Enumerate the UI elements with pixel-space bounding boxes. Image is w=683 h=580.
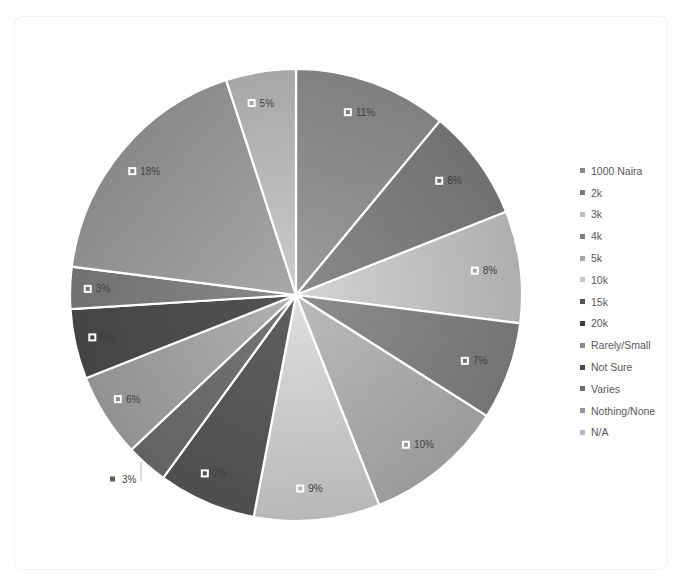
- legend-label: 20k: [591, 317, 608, 329]
- data-label: 5%: [88, 332, 115, 343]
- legend-swatch-icon: [580, 365, 585, 370]
- svg-text:10%: 10%: [414, 439, 434, 450]
- legend-label: 2k: [591, 187, 602, 199]
- data-label: 9%: [296, 483, 323, 494]
- svg-text:9%: 9%: [308, 483, 323, 494]
- legend-item-varies: Varies: [580, 378, 655, 400]
- svg-text:3%: 3%: [96, 283, 111, 294]
- legend-item-5k: 5k: [580, 247, 655, 269]
- legend-swatch-icon: [580, 408, 585, 413]
- legend-item-nothing-none: Nothing/None: [580, 400, 655, 422]
- legend-label: 1000 Naira: [591, 165, 642, 177]
- data-label: 7%: [201, 468, 228, 479]
- legend-swatch-icon: [580, 190, 585, 195]
- legend-swatch-icon: [580, 277, 585, 282]
- legend-label: N/A: [591, 426, 609, 438]
- data-label: 6%: [114, 394, 141, 405]
- legend-item-not-sure: Not Sure: [580, 356, 655, 378]
- legend-label: Nothing/None: [591, 405, 655, 417]
- legend-swatch-icon: [580, 321, 585, 326]
- data-label: 8%: [435, 175, 462, 186]
- legend-swatch-icon: [580, 234, 585, 239]
- legend-swatch-icon: [580, 256, 585, 261]
- legend-label: 10k: [591, 274, 608, 286]
- legend-item-rarely-small: Rarely/Small: [580, 334, 655, 356]
- legend-item-20k: 20k: [580, 313, 655, 335]
- svg-text:5%: 5%: [100, 332, 115, 343]
- legend-label: Varies: [591, 383, 620, 395]
- legend-swatch-icon: [580, 212, 585, 217]
- data-label: 11%: [344, 107, 375, 118]
- data-label: 8%: [471, 265, 498, 276]
- svg-text:18%: 18%: [140, 166, 160, 177]
- svg-text:8%: 8%: [447, 175, 462, 186]
- legend-item-4k: 4k: [580, 225, 655, 247]
- svg-text:7%: 7%: [473, 355, 488, 366]
- data-label: 10%: [402, 439, 434, 450]
- legend-swatch-icon: [580, 168, 585, 173]
- legend-label: 5k: [591, 252, 602, 264]
- data-label: 5%: [248, 98, 275, 109]
- legend-label: 15k: [591, 296, 608, 308]
- svg-text:7%: 7%: [213, 468, 228, 479]
- data-label: 3%: [84, 283, 111, 294]
- legend-item-10k: 10k: [580, 269, 655, 291]
- legend-swatch-icon: [580, 299, 585, 304]
- legend-item-n-a: N/A: [580, 422, 655, 444]
- legend-swatch-icon: [580, 386, 585, 391]
- legend-swatch-icon: [580, 430, 585, 435]
- legend-swatch-icon: [580, 343, 585, 348]
- legend-item-15k: 15k: [580, 291, 655, 313]
- legend-item-1000-naira: 1000 Naira: [580, 160, 655, 182]
- svg-text:5%: 5%: [260, 98, 275, 109]
- legend-item-2k: 2k: [580, 182, 655, 204]
- svg-text:3%: 3%: [122, 474, 137, 485]
- chart-legend: 1000 Naira2k3k4k5k10k15k20kRarely/SmallN…: [580, 160, 655, 443]
- data-label: 18%: [128, 166, 160, 177]
- legend-label: 4k: [591, 230, 602, 242]
- data-label: 3%: [110, 462, 141, 485]
- svg-text:8%: 8%: [483, 265, 498, 276]
- legend-label: Not Sure: [591, 361, 632, 373]
- data-label: 7%: [461, 355, 488, 366]
- svg-text:11%: 11%: [356, 107, 375, 118]
- legend-label: Rarely/Small: [591, 339, 651, 351]
- legend-label: 3k: [591, 208, 602, 220]
- legend-item-3k: 3k: [580, 204, 655, 226]
- svg-text:6%: 6%: [126, 394, 141, 405]
